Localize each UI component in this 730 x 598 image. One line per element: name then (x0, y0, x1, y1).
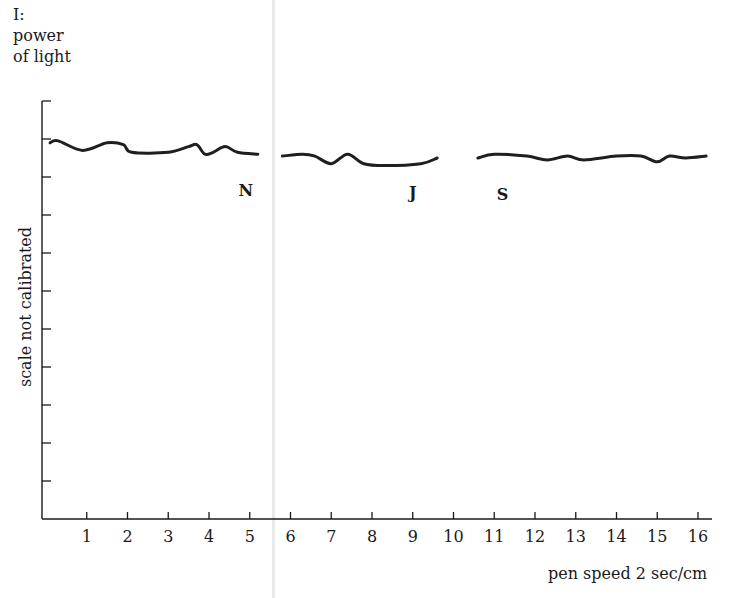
curve-segment-J (282, 154, 437, 165)
x-tick-label: 11 (484, 527, 504, 546)
x-tick-label: 8 (367, 527, 377, 546)
chart-plot: 12345678910111213141516 NJS (0, 0, 730, 598)
curve-segment-S (478, 154, 706, 162)
x-tick-label: 4 (204, 527, 214, 546)
x-tick-label: 2 (122, 527, 132, 546)
station-label-j: J (407, 183, 417, 202)
y-ticks (42, 101, 51, 481)
curve-segment-N (50, 141, 258, 155)
x-tick-label: 7 (326, 527, 336, 546)
x-tick-label: 9 (408, 527, 418, 546)
x-tick-label: 10 (443, 527, 463, 546)
station-label-s: S (497, 185, 509, 204)
station-label-n: N (238, 181, 253, 200)
x-tick-label: 15 (647, 527, 667, 546)
x-tick-labels: 12345678910111213141516 (82, 527, 709, 546)
x-tick-label: 6 (285, 527, 295, 546)
x-tick-label: 5 (245, 527, 255, 546)
x-tick-label: 13 (566, 527, 586, 546)
x-tick-label: 12 (525, 527, 545, 546)
x-tick-label: 14 (606, 527, 626, 546)
data-curves (50, 141, 706, 166)
axes (42, 101, 712, 519)
x-tick-label: 3 (163, 527, 173, 546)
x-tick-label: 16 (688, 527, 708, 546)
station-labels: NJS (238, 181, 508, 204)
x-ticks (87, 512, 698, 519)
x-tick-label: 1 (82, 527, 92, 546)
